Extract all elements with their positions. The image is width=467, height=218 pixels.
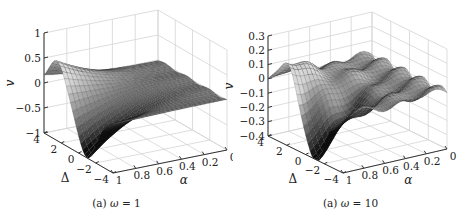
- caption-omega-10: (a) ω = 10: [234, 197, 467, 209]
- z-tick-label: 0.1: [248, 58, 265, 70]
- alpha-axis-ticks: 10.80.60.40.20: [341, 146, 456, 186]
- delta-tick-label: 4: [257, 136, 264, 148]
- alpha-tick-label: 0: [450, 150, 457, 162]
- alpha-tick-label: 0.2: [424, 155, 441, 167]
- z-axis-label: v: [222, 82, 236, 89]
- alpha-axis-label: α: [404, 173, 412, 187]
- z-axis-ticks: 0.30.20.10−0.1−0.2−0.3−0.4: [240, 30, 273, 142]
- alpha-tick-label: 0.4: [403, 160, 420, 172]
- z-tick-label: 0: [258, 72, 265, 84]
- delta-tick-label: −4: [324, 173, 340, 185]
- z-tick-label: −0.2: [240, 101, 266, 113]
- alpha-tick-label: 1: [346, 174, 353, 186]
- z-tick-label: 0.2: [248, 44, 265, 56]
- subplot-omega-10: 0.30.20.10−0.1−0.2−0.3−0.4v420−2−4Δ10.80…: [234, 0, 467, 218]
- z-tick-label: 0.3: [248, 30, 265, 42]
- alpha-tick-label: 0.8: [361, 169, 378, 181]
- delta-tick-label: −2: [305, 164, 320, 176]
- alpha-tick-label: 0.6: [382, 164, 399, 176]
- z-tick-label: −0.3: [240, 115, 266, 127]
- delta-tick-label: 0: [295, 155, 302, 167]
- delta-tick-label: 2: [276, 145, 283, 157]
- surface-plot-omega-10: 0.30.20.10−0.1−0.2−0.3−0.4v420−2−4Δ10.80…: [0, 0, 467, 218]
- z-tick-label: −0.1: [240, 87, 266, 99]
- delta-axis-label: Δ: [289, 172, 298, 186]
- surface-mesh: [268, 51, 447, 161]
